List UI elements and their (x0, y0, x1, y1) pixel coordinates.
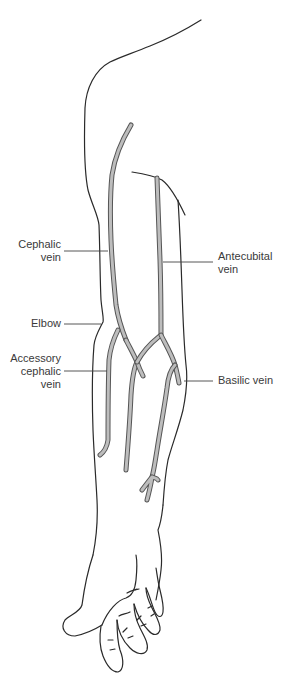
veins (100, 125, 179, 500)
label-cephalic-vein-line2: vein (2, 251, 61, 264)
arm-outline (63, 20, 201, 672)
accessory-cephalic-vein (100, 330, 118, 455)
label-accessory-cephalic-vein-line1: Accessory (2, 352, 61, 365)
label-antecubital-vein: Antecubital vein (218, 250, 272, 276)
label-cephalic-vein: Cephalic vein (2, 238, 61, 264)
cephalic-vein (110, 125, 131, 340)
label-accessory-cephalic-vein-line3: vein (2, 378, 61, 391)
arm-vein-diagram (0, 0, 289, 679)
label-antecubital-vein-line2: vein (218, 263, 272, 276)
antecubital-vein (137, 178, 161, 362)
label-elbow: Elbow (2, 317, 61, 330)
label-accessory-cephalic-vein-line2: cephalic (2, 365, 61, 378)
label-accessory-cephalic-vein: Accessory cephalic vein (2, 352, 61, 391)
label-basilic-vein: Basilic vein (218, 374, 273, 387)
label-antecubital-vein-line1: Antecubital (218, 250, 272, 263)
label-elbow-line1: Elbow (2, 317, 61, 330)
label-basilic-vein-line1: Basilic vein (218, 374, 273, 387)
basilic-vein (142, 335, 179, 500)
label-cephalic-vein-line1: Cephalic (2, 238, 61, 251)
